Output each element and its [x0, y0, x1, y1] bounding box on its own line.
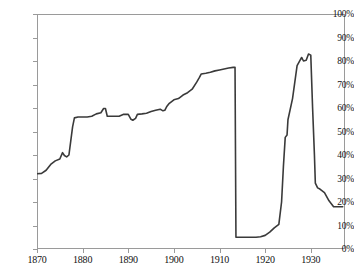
x-axis-tick-label: 1880	[60, 254, 106, 265]
x-axis-tick-label: 1900	[151, 254, 197, 265]
x-axis-tick-label: 1930	[288, 254, 334, 265]
x-axis-tick-label: 1890	[105, 254, 151, 265]
data-series-line	[37, 14, 345, 249]
x-axis-tick-mark	[37, 249, 38, 253]
x-axis-tick-mark	[265, 249, 266, 253]
chart-title	[168, 0, 184, 7]
x-axis-tick-mark	[83, 249, 84, 253]
x-axis-tick-mark	[220, 249, 221, 253]
x-axis-tick-mark	[311, 249, 312, 253]
x-axis-tick-label: 1870	[14, 254, 60, 265]
chart-container: 100%90%80%70%60%50%40%30%20%10%0% 187018…	[0, 0, 354, 276]
x-axis-tick-label: 1910	[197, 254, 243, 265]
x-axis-tick-mark	[174, 249, 175, 253]
x-axis-tick-mark	[128, 249, 129, 253]
x-axis-tick-label: 1920	[242, 254, 288, 265]
